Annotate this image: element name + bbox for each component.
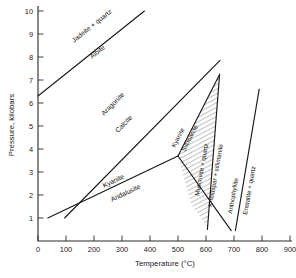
x-tick-label: 200: [88, 245, 100, 254]
y-tick-label: 7: [29, 76, 33, 85]
phase-diagram-svg: 10 9 8 7 6 5 4 3 2 1 0 100: [0, 0, 296, 278]
label-anthophyllite: Anthophyllite: [226, 177, 240, 214]
x-tick-label: 400: [144, 245, 156, 254]
label-andalusite: Andalusite: [109, 183, 141, 203]
y-tick-label: 3: [29, 168, 33, 177]
x-tick-label: 500: [172, 245, 184, 254]
x-tick-label: 300: [116, 245, 128, 254]
x-axis-ticks: [38, 236, 290, 242]
x-tick-label: 800: [256, 245, 268, 254]
y-tick-label: 9: [29, 30, 33, 39]
y-tick-label: 10: [25, 7, 33, 16]
x-tick-label: 0: [36, 245, 40, 254]
x-axis-tick-labels: 0 100 200 300 400 500 600 700 800 900: [36, 245, 296, 254]
label-aragonite: Aragonite: [100, 91, 127, 118]
label-jadeite-quartz: Jadeite + quartz: [70, 7, 114, 44]
y-axis-ticks: [38, 11, 44, 218]
y-tick-label: 6: [29, 99, 33, 108]
x-axis-title: Temperature (°C): [135, 259, 195, 268]
x-tick-label: 700: [228, 245, 240, 254]
y-tick-label: 8: [29, 53, 33, 62]
y-tick-label: 4: [29, 145, 33, 154]
curve-kyanite-andalusite: [48, 156, 178, 218]
x-tick-label: 100: [60, 245, 72, 254]
y-tick-label: 1: [29, 214, 33, 223]
y-axis-tick-labels: 10 9 8 7 6 5 4 3 2 1: [25, 7, 33, 223]
y-tick-label: 5: [29, 122, 33, 131]
x-tick-label: 900: [284, 245, 296, 254]
y-tick-label: 2: [29, 191, 33, 200]
label-calcite: Calcite: [114, 114, 134, 134]
x-tick-label: 600: [200, 245, 212, 254]
y-axis-title: Pressure, kilobars: [7, 94, 16, 156]
label-enstatite-quartz: Enstatite + quartz: [241, 166, 257, 216]
label-albite: Albite: [88, 43, 106, 59]
phase-diagram-figure: 10 9 8 7 6 5 4 3 2 1 0 100: [0, 0, 296, 278]
